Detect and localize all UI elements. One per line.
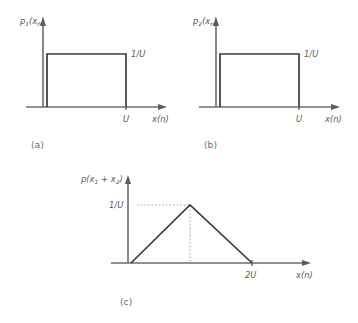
panel-a-y-axis-label: p1(xn) <box>19 16 44 27</box>
panel-a-x-axis-arrow <box>158 104 167 110</box>
panel-b-x-axis-label: x(n) <box>324 114 342 124</box>
panel-c-x-axis-arrow <box>302 260 311 266</box>
panel-c-x-axis-label: x(n) <box>295 270 313 280</box>
panel-a-ylabel-arg-close: ) <box>40 16 44 26</box>
panel-c-y-axis-arrow <box>125 175 131 184</box>
panel-b-y-axis-label: p2(xn) <box>192 16 217 27</box>
panel-a <box>26 17 167 110</box>
panel-c-pdf-curve <box>131 205 252 263</box>
panel-b-caption: (b) <box>204 139 217 150</box>
panel-b-height-label: 1/U <box>304 49 318 59</box>
panel-b-x-tick-label: U <box>296 114 302 124</box>
panel-c-caption: (c) <box>120 296 132 307</box>
panel-b-x-axis-arrow <box>331 104 340 110</box>
panel-a-pdf-curve <box>47 54 126 107</box>
figure-svg: p1(xn) 1/U U x(n) (a) p2(xn) 1/U U x(n) … <box>0 0 358 323</box>
panel-b-pdf-curve <box>220 54 299 107</box>
panel-a-height-label: 1/U <box>131 49 145 59</box>
panel-c <box>111 175 311 266</box>
panel-c-x-tick-label: 2U <box>245 270 256 280</box>
figure-container: p1(xn) 1/U U x(n) (a) p2(xn) 1/U U x(n) … <box>0 0 358 323</box>
panel-a-x-tick-label: U <box>123 114 129 124</box>
panel-a-x-axis-label: x(n) <box>151 114 169 124</box>
panel-c-ylabel-plus: + x <box>98 174 116 184</box>
panel-b-ylabel-arg-close: ) <box>213 16 217 26</box>
panel-b <box>199 17 340 110</box>
panel-c-y-axis-label: p(x1 + x2) <box>80 174 123 185</box>
panel-c-height-label: 1/U <box>109 200 123 210</box>
panel-a-caption: (a) <box>31 139 44 150</box>
panel-c-ylabel-arg-close: ) <box>118 174 122 184</box>
